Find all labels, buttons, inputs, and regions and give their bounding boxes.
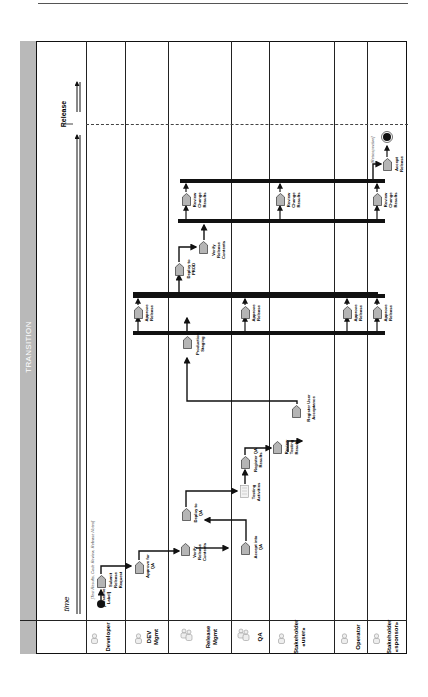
- activity-review-change-results-qa: [276, 192, 285, 205]
- activity-label: Deploy to PROD: [186, 256, 196, 282]
- actor-icon: [134, 630, 143, 641]
- activity-approve-release-dev-mgmt: [134, 305, 143, 318]
- activity-review-testing-results: [273, 440, 282, 453]
- activity-submit-release-request: [97, 574, 106, 587]
- activity-production-staging: [183, 335, 192, 348]
- activity-label: Production Staging: [195, 329, 205, 359]
- lane-header-separator: [20, 620, 407, 621]
- lane-label-stakeholder-sponsor: Stakeholder «sponsor»: [386, 620, 400, 654]
- activity-review-change-results-sponsor: [373, 192, 382, 205]
- activity-label: Testing Activities: [251, 479, 261, 505]
- lane-label-stakeholder-user: Stakeholder «user»: [293, 620, 307, 654]
- activity-label: Approve Release: [353, 301, 363, 325]
- milestone-label: Release: [60, 101, 67, 127]
- phase-label: TRANSITION: [24, 321, 33, 372]
- activity-label: Review Change Results: [286, 187, 301, 213]
- activity-verify-release-contents-prod: [199, 240, 208, 253]
- activity-label: Approve Release: [251, 301, 261, 325]
- start-note: [Test Results, Code Review, Release Note…: [90, 521, 95, 599]
- activity-label: Review Change Results: [383, 187, 398, 213]
- activity-approve-release-operator: [343, 305, 352, 318]
- activity-label: Verify Release Contents: [192, 538, 207, 566]
- activity-label: Register User Acceptance: [306, 385, 316, 431]
- activity-deploy-to-qa: [182, 507, 191, 520]
- lane-separator: [269, 41, 270, 654]
- activity-testing-activities: [240, 484, 249, 497]
- activity-label: Deploy to QA: [193, 502, 203, 524]
- swimlane-diagram: [20, 41, 407, 654]
- activity-accept-into-qa: [241, 541, 250, 554]
- activity-label: Approve for QA: [145, 554, 155, 578]
- activity-label: Verify Release Contents: [211, 236, 226, 264]
- lane-separator: [125, 41, 126, 654]
- activity-deploy-to-prod: [175, 262, 184, 275]
- activity-approve-release-qa: [241, 305, 250, 318]
- activity-review-change-results-dev-mgmt: [182, 192, 191, 205]
- time-axis-label: time: [62, 596, 71, 611]
- activity-label: Approve Release: [144, 301, 154, 325]
- lane-separator: [168, 41, 169, 654]
- lane-label-qa: QA: [257, 633, 264, 642]
- actor-icon: [372, 630, 381, 641]
- lane-label-developer: Developer: [105, 622, 112, 651]
- lane-label-operator: Operator: [355, 624, 362, 649]
- lane-separator: [231, 41, 232, 654]
- lane-separator: [86, 41, 87, 654]
- activity-approve-release-sponsor: [373, 305, 382, 318]
- activity-label: Review Testing Results: [284, 433, 299, 461]
- lane-label-dev-mgmt: DEV Mgmt: [146, 624, 160, 650]
- lane-separator: [334, 41, 335, 654]
- actor-icon: [340, 630, 349, 641]
- page-header-rule: [38, 3, 408, 4]
- milestone-line: [86, 124, 408, 125]
- actor-group-icon: [237, 628, 251, 642]
- actor-icon: [90, 630, 99, 641]
- activity-label: Accept Release: [394, 152, 404, 176]
- activity-label: Register QA Results: [253, 445, 263, 475]
- activity-register-qa-results: [241, 455, 250, 468]
- activity-register-user-acceptance: [292, 404, 301, 417]
- activity-label: Approve Release: [383, 301, 393, 325]
- activity-approve-for-qa: [135, 560, 144, 573]
- actor-group-icon: [180, 628, 194, 642]
- activity-label: Accept into QA: [253, 535, 263, 559]
- lane-separator: [367, 41, 368, 654]
- lane-label-release-mgmt: Release Mgmt: [205, 623, 219, 651]
- end-note: [Retrospective]: [370, 137, 375, 164]
- activity-accept-release: [383, 157, 392, 170]
- activity-label: Submit Release Request: [108, 565, 123, 595]
- actor-icon: [277, 630, 286, 641]
- activity-label: Review Change Results: [192, 187, 207, 213]
- activity-verify-release-contents: [181, 542, 190, 555]
